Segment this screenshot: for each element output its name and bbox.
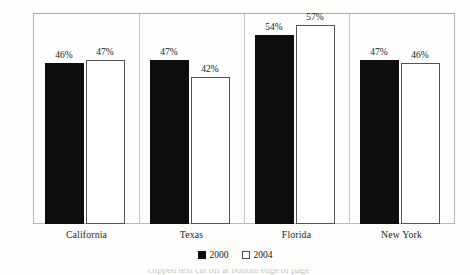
legend-item-2000: 2000 bbox=[198, 250, 229, 260]
chart-page: 0%10%20%30%40%50%60% 46%47%47%42%54%57%4… bbox=[0, 0, 470, 275]
category-label-texas: Texas bbox=[180, 229, 203, 240]
legend-label-2004: 2004 bbox=[254, 250, 273, 260]
bar-california-2000 bbox=[45, 63, 84, 224]
legend-item-2004: 2004 bbox=[242, 250, 273, 260]
bar-texas-2000 bbox=[150, 60, 189, 225]
bar-new-york-2000 bbox=[360, 60, 399, 225]
chart-legend: 2000 2004 bbox=[0, 250, 470, 260]
category-label-california: California bbox=[66, 229, 107, 240]
legend-swatch-outlined-square-icon bbox=[242, 251, 250, 259]
bar-value-label: 47% bbox=[96, 47, 114, 57]
bar-california-2004 bbox=[86, 60, 125, 225]
footnote-clip: clipped text cut off at bottom edge of p… bbox=[0, 269, 470, 275]
plot-area: 46%47%47%42%54%57%47%46% bbox=[34, 14, 454, 224]
bar-value-label: 54% bbox=[265, 22, 283, 32]
bar-florida-2004 bbox=[296, 25, 335, 225]
bar-florida-2000 bbox=[255, 35, 294, 224]
bar-value-label: 42% bbox=[201, 64, 219, 74]
group-separator bbox=[244, 14, 245, 224]
bar-texas-2004 bbox=[191, 77, 230, 224]
bar-value-label: 46% bbox=[55, 50, 73, 60]
group-separator bbox=[139, 14, 140, 224]
bar-value-label: 46% bbox=[411, 50, 429, 60]
bar-new-york-2004 bbox=[401, 63, 440, 224]
bar-value-label: 47% bbox=[160, 47, 178, 57]
legend-swatch-filled-square-icon bbox=[198, 251, 206, 259]
footnote-text: clipped text cut off at bottom edge of p… bbox=[148, 269, 309, 275]
bar-value-label: 47% bbox=[370, 47, 388, 57]
bar-value-label: 57% bbox=[306, 12, 324, 22]
legend-label-2000: 2000 bbox=[210, 250, 229, 260]
group-separator bbox=[349, 14, 350, 224]
category-label-new-york: New York bbox=[381, 229, 422, 240]
category-label-florida: Florida bbox=[282, 229, 311, 240]
